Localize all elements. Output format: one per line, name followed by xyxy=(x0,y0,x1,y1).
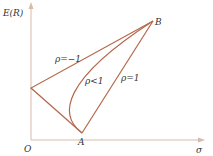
efficient-frontier-diagram: E(R) σ O A B ρ=−1 ρ<1 ρ=1 xyxy=(0,0,213,156)
label-rho-less-one: ρ<1 xyxy=(84,76,104,86)
label-rho-one: ρ=1 xyxy=(120,73,140,83)
origin-label: O xyxy=(24,144,32,154)
y-axis-arrow-icon xyxy=(29,2,34,9)
x-axis-arrow-icon xyxy=(198,138,205,143)
label-rho-neg-one: ρ=−1 xyxy=(54,54,81,64)
y-axis-label: E(R) xyxy=(2,8,24,18)
curve-rho-less-one xyxy=(69,21,153,133)
point-a-label: A xyxy=(77,137,85,147)
point-b-label: B xyxy=(154,17,162,27)
x-axis-label: σ xyxy=(196,145,203,155)
